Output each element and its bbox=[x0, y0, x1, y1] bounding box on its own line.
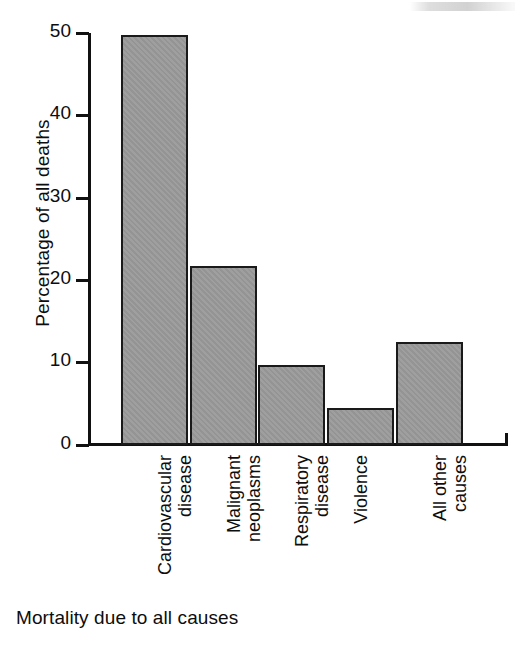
y-tick-mark bbox=[76, 197, 89, 200]
y-tick-label: 30 bbox=[50, 186, 71, 205]
y-tick-label: 0 bbox=[60, 433, 71, 452]
y-tick-label: 20 bbox=[50, 268, 71, 287]
x-tick-label-malignant-neoplasms: Malignant neoplasms bbox=[224, 455, 264, 605]
plot-area: Percentage of all deaths 0 10 20 30 40 5 bbox=[0, 0, 525, 648]
x-axis-end-tick bbox=[505, 433, 508, 446]
y-axis-title: Percentage of all deaths bbox=[32, 93, 54, 353]
x-tick-label-respiratory-disease: Respiratory disease bbox=[292, 455, 332, 605]
y-tick-label: 10 bbox=[50, 350, 71, 369]
bar-cardiovascular-disease bbox=[121, 35, 188, 445]
y-tick-mark bbox=[76, 279, 89, 282]
bar-all-other-causes bbox=[396, 342, 463, 445]
y-axis-line bbox=[88, 33, 91, 446]
y-tick-mark bbox=[76, 361, 89, 364]
bar-malignant-neoplasms bbox=[190, 266, 257, 445]
x-tick-label-all-other-causes: All other causes bbox=[430, 455, 470, 605]
x-tick-label-violence: Violence bbox=[351, 455, 371, 605]
y-tick-label: 50 bbox=[50, 21, 71, 40]
bar-violence bbox=[327, 408, 394, 445]
x-tick-label-cardiovascular-disease: Cardiovascular disease bbox=[155, 455, 195, 605]
y-tick-mark bbox=[76, 444, 89, 447]
y-tick-label: 40 bbox=[50, 103, 71, 122]
y-tick-mark bbox=[76, 114, 89, 117]
y-tick-mark bbox=[76, 32, 89, 35]
chart-figure: Percentage of all deaths 0 10 20 30 40 5 bbox=[0, 0, 525, 648]
figure-caption: Mortality due to all causes bbox=[16, 607, 238, 629]
bar-respiratory-disease bbox=[258, 365, 325, 445]
